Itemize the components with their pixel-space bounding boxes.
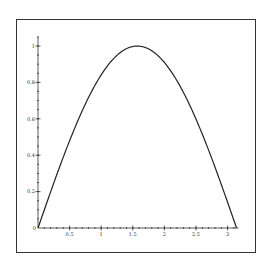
- x-tick-label: 1.5: [129, 231, 137, 237]
- x-tick-label: 2: [163, 231, 166, 237]
- x-tick-label: 2.5: [192, 231, 200, 237]
- y-tick-label: 0.6: [27, 116, 35, 122]
- x-tick-label: 1: [100, 231, 103, 237]
- origin-label: 0: [33, 225, 36, 231]
- y-tick-label: 1: [32, 43, 35, 49]
- y-tick-label: 0.4: [27, 152, 35, 158]
- sine-curve: [38, 46, 237, 228]
- axes: [38, 37, 239, 228]
- x-tick-label: 3: [226, 231, 229, 237]
- y-tick-label: 0.2: [27, 188, 35, 194]
- chart-canvas: 0.511.522.530.20.40.60.810: [0, 0, 271, 266]
- x-tick-label: 0.5: [66, 231, 74, 237]
- y-tick-label: 0.8: [27, 79, 35, 85]
